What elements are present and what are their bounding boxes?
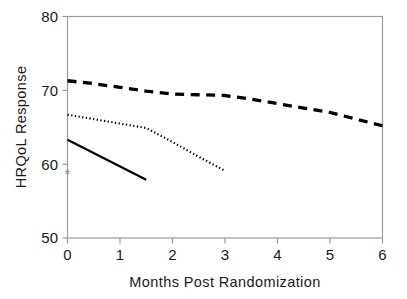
y-axis-ticks xyxy=(63,17,68,239)
x-tick-label-5: 5 xyxy=(326,246,334,263)
x-tick-label-0: 0 xyxy=(63,246,71,263)
x-tick-label-3: 3 xyxy=(221,246,229,263)
dotted-series-line xyxy=(68,115,226,171)
x-axis-title: Months Post Randomization xyxy=(129,274,320,290)
y-axis-title: HRQoL Response xyxy=(13,66,29,189)
y-tick-label-80: 80 xyxy=(41,8,58,25)
x-tick-label-4: 4 xyxy=(273,246,281,263)
dashed-series-line xyxy=(68,81,383,126)
x-axis-ticks xyxy=(68,238,383,244)
chart-figure: 80 70 60 50 0 1 2 3 4 5 6 HRQoL Response… xyxy=(0,0,407,299)
y-tick-label-70: 70 xyxy=(41,82,58,99)
asterisk-marker: * xyxy=(65,165,71,182)
data-series-group xyxy=(68,81,383,180)
x-tick-label-2: 2 xyxy=(168,246,176,263)
annotation-group: * xyxy=(65,165,71,182)
solid-series-line xyxy=(68,140,147,180)
y-tick-label-60: 60 xyxy=(41,156,58,173)
y-tick-label-50: 50 xyxy=(41,229,58,246)
hrqol-line-chart: 80 70 60 50 0 1 2 3 4 5 6 HRQoL Response… xyxy=(0,0,407,299)
plot-frame xyxy=(68,17,383,239)
x-tick-label-1: 1 xyxy=(116,246,124,263)
x-tick-label-6: 6 xyxy=(378,246,386,263)
